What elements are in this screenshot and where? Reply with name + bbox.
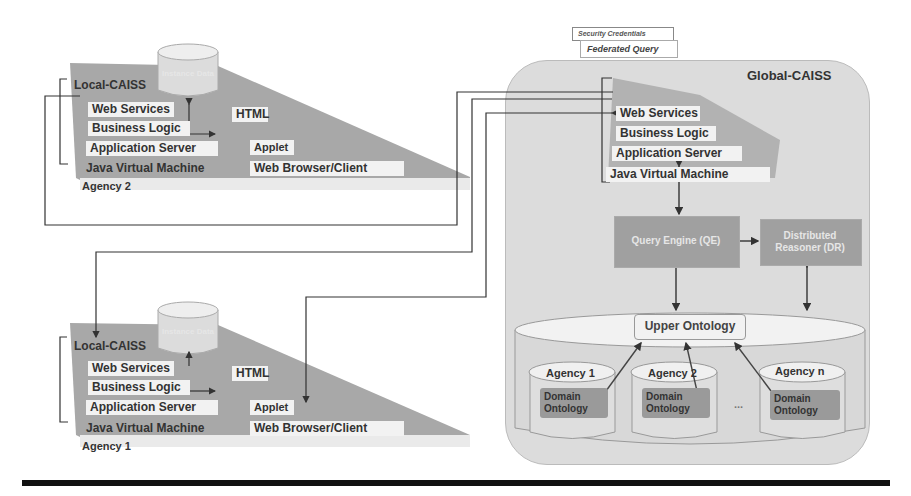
upper-ontology-box: Upper Ontology	[634, 314, 746, 340]
local-java-virtual-machine: Java Virtual Machine	[82, 421, 246, 436]
security-credentials-tag: Security Credentials	[572, 27, 674, 41]
local-web-services: Web Services	[88, 102, 174, 117]
local-business-logic: Business Logic	[88, 121, 190, 136]
agency-2-label: Agency 2	[648, 367, 697, 379]
local-application-server: Application Server	[86, 400, 218, 415]
local-web-browser: Web Browser/Client	[250, 421, 404, 436]
agency-label: Agency 2	[82, 180, 131, 192]
local-html: HTML	[232, 366, 268, 381]
instance-data-label: Instance Data	[158, 64, 218, 84]
global-business-logic: Business Logic	[616, 126, 716, 141]
agency-n-label: Agency n	[775, 365, 825, 377]
local-java-virtual-machine: Java Virtual Machine	[82, 161, 246, 176]
local-applet: Applet	[250, 140, 294, 155]
federated-query-tag: Federated Query	[580, 40, 678, 58]
distributed-reasoner-label: Distributed Reasoner (DR)	[766, 219, 854, 264]
ellipsis: ...	[734, 398, 743, 410]
local-caiss-title: Local-CAISS	[74, 78, 146, 92]
agency-1-label: Agency 1	[546, 367, 595, 379]
local-web-browser: Web Browser/Client	[250, 161, 404, 176]
agency-1-domain-ontology: Domain Ontology	[540, 388, 608, 418]
instance-data-label: Instance Data	[158, 322, 218, 342]
local-application-server: Application Server	[86, 141, 218, 156]
local-business-logic: Business Logic	[88, 380, 190, 395]
agency-n-domain-ontology: Domain Ontology	[770, 390, 840, 420]
global-application-server: Application Server	[612, 146, 742, 161]
local-html: HTML	[232, 107, 268, 122]
agency-2-domain-ontology: Domain Ontology	[642, 388, 710, 418]
local-applet: Applet	[250, 400, 294, 415]
query-engine-label: Query Engine (QE)	[614, 216, 738, 266]
local-web-services: Web Services	[88, 361, 174, 376]
global-caiss-title: Global-CAISS	[747, 68, 832, 83]
local-caiss-title: Local-CAISS	[74, 339, 146, 353]
global-web-services: Web Services	[616, 106, 700, 121]
global-java-virtual-machine: Java Virtual Machine	[606, 167, 770, 182]
agency-label: Agency 1	[82, 440, 131, 452]
